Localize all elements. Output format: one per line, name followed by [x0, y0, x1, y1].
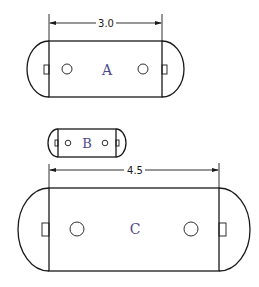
- shape-a-label: A: [101, 62, 113, 78]
- shape-b-hole-right: [102, 140, 108, 146]
- shape-b-label: B: [82, 136, 92, 151]
- shape-b-right-arc: [116, 129, 126, 157]
- shape-b: B: [48, 129, 126, 157]
- shape-c: C: [18, 188, 250, 271]
- shape-a-hole-left: [62, 64, 72, 74]
- shape-b-left-arc: [48, 129, 58, 157]
- dimension-c: 4.5: [49, 163, 219, 188]
- shape-c-right-tab: [219, 223, 226, 236]
- arrow-right-icon: [212, 168, 219, 172]
- shape-a-right-tab: [162, 65, 167, 74]
- shape-c-hole-right: [184, 222, 198, 236]
- shape-a-hole-right: [138, 64, 148, 74]
- shape-c-left-arc: [18, 188, 49, 271]
- shape-c-right-arc: [219, 188, 250, 271]
- shape-c-label: C: [130, 221, 141, 237]
- arrow-left-icon: [49, 168, 56, 172]
- dimension-label-a: 3.0: [98, 18, 114, 29]
- shape-c-left-tab: [42, 223, 49, 236]
- arrow-right-icon: [155, 21, 162, 25]
- dimension-label-c: 4.5: [127, 165, 143, 176]
- shape-a-left-arc: [27, 41, 49, 97]
- dimension-a: 3.0: [49, 14, 162, 41]
- shape-b-right-tab: [116, 140, 119, 146]
- shape-a: A: [27, 41, 184, 97]
- diagram-canvas: 3.0 A B 4.5: [0, 0, 259, 287]
- shape-a-right-arc: [162, 41, 184, 97]
- arrow-left-icon: [49, 21, 56, 25]
- shape-a-left-tab: [44, 65, 49, 74]
- shape-b-hole-left: [65, 140, 71, 146]
- shape-c-hole-left: [70, 222, 84, 236]
